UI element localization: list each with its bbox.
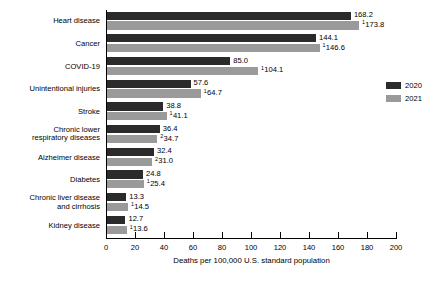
category-label: Diabetes — [0, 176, 100, 185]
bar-chart: Heart disease168.21173.8Cancer144.11146.… — [0, 0, 444, 281]
category-label: Alzheimer disease — [0, 153, 100, 162]
category-label: COVID-19 — [0, 62, 100, 71]
bar-2021[interactable] — [107, 203, 128, 211]
bar-2021[interactable] — [107, 112, 167, 120]
category-label: Chronic liver disease and cirrhosis — [0, 194, 100, 211]
legend-item-2020[interactable]: 2020 — [386, 80, 422, 91]
legend-swatch-2021 — [386, 95, 401, 103]
x-tick-label: 20 — [120, 243, 150, 252]
bar-value-2020: 32.4 — [157, 147, 172, 155]
bar-value-2021: 1173.8 — [362, 21, 384, 29]
chart-row: Diabetes24.8125.4 — [0, 169, 444, 192]
bar-2020[interactable] — [107, 170, 143, 178]
bar-value-2021: 234.7 — [160, 135, 178, 143]
chart-row: Unintentional injuries57.6164.7 — [0, 78, 444, 101]
bar-value-2021: 231.0 — [155, 157, 173, 165]
x-tick-label: 40 — [149, 243, 179, 252]
legend-item-2021[interactable]: 2021 — [386, 93, 422, 104]
chart-row: Cancer144.11146.6 — [0, 33, 444, 56]
bar-2021[interactable] — [107, 158, 152, 166]
bar-2020[interactable] — [107, 102, 163, 110]
chart-row: Heart disease168.21173.8 — [0, 10, 444, 33]
x-tick-label: 0 — [91, 243, 121, 252]
bar-2021[interactable] — [107, 67, 258, 75]
x-tick-mark — [367, 232, 368, 238]
x-tick-mark — [135, 232, 136, 238]
bar-value-2020: 38.8 — [166, 102, 181, 110]
chart-row: Chronic lower respiratory diseases36.423… — [0, 124, 444, 147]
bar-value-2020: 57.6 — [194, 79, 209, 87]
x-tick-label: 140 — [294, 243, 324, 252]
x-tick-mark — [106, 232, 107, 238]
x-tick-mark — [338, 232, 339, 238]
bar-value-2021: 125.4 — [147, 180, 165, 188]
bar-value-2021: 113.6 — [130, 225, 148, 233]
bar-2021[interactable] — [107, 135, 157, 143]
x-tick-mark — [222, 232, 223, 238]
x-tick-label: 120 — [265, 243, 295, 252]
bar-value-2020: 36.4 — [163, 125, 178, 133]
bar-2021[interactable] — [107, 226, 127, 234]
bar-2020[interactable] — [107, 57, 230, 65]
x-axis-line — [106, 238, 397, 239]
x-tick-mark — [396, 232, 397, 238]
x-axis-title: Deaths per 100,000 U.S. standard populat… — [106, 256, 397, 265]
x-tick-mark — [309, 232, 310, 238]
chart-row: Chronic liver disease and cirrhosis13.31… — [0, 192, 444, 215]
category-label: Stroke — [0, 108, 100, 117]
chart-row: Alzheimer disease32.4231.0 — [0, 146, 444, 169]
bar-2020[interactable] — [107, 148, 154, 156]
x-tick-mark — [280, 232, 281, 238]
bar-2021[interactable] — [107, 21, 359, 29]
bar-2020[interactable] — [107, 125, 160, 133]
x-tick-label: 100 — [236, 243, 266, 252]
x-tick-label: 180 — [352, 243, 382, 252]
x-tick-mark — [193, 232, 194, 238]
bar-2020[interactable] — [107, 216, 125, 224]
chart-row: COVID-1985.01104.1 — [0, 55, 444, 78]
bar-value-2021: 1146.6 — [323, 44, 345, 52]
chart-row: Stroke38.8141.1 — [0, 101, 444, 124]
bar-2020[interactable] — [107, 193, 126, 201]
bar-2020[interactable] — [107, 34, 316, 42]
bar-value-2020: 85.0 — [233, 57, 248, 65]
legend-label-2021: 2021 — [405, 94, 422, 103]
x-tick-label: 80 — [207, 243, 237, 252]
category-label: Chronic lower respiratory diseases — [0, 126, 100, 143]
bar-2020[interactable] — [107, 12, 351, 20]
bar-value-2021: 141.1 — [170, 112, 188, 120]
category-label: Heart disease — [0, 17, 100, 26]
bar-2020[interactable] — [107, 80, 191, 88]
bar-value-2021: 114.5 — [131, 203, 149, 211]
category-label: Unintentional injuries — [0, 85, 100, 94]
x-tick-label: 200 — [381, 243, 411, 252]
x-tick-mark — [251, 232, 252, 238]
bar-value-2021: 164.7 — [204, 89, 222, 97]
bar-value-2020: 12.7 — [128, 215, 143, 223]
category-label: Kidney disease — [0, 221, 100, 230]
legend-swatch-2020 — [386, 82, 401, 90]
chart-legend: 2020 2021 — [386, 80, 422, 106]
x-tick-mark — [164, 232, 165, 238]
x-tick-label: 160 — [323, 243, 353, 252]
category-label: Cancer — [0, 40, 100, 49]
x-tick-label: 60 — [178, 243, 208, 252]
bar-value-2020: 13.3 — [129, 193, 144, 201]
bar-value-2021: 1104.1 — [261, 66, 283, 74]
bar-value-2020: 144.1 — [319, 34, 338, 42]
bar-2021[interactable] — [107, 44, 320, 52]
bar-2021[interactable] — [107, 180, 144, 188]
legend-label-2020: 2020 — [405, 81, 422, 90]
bar-2021[interactable] — [107, 89, 201, 97]
